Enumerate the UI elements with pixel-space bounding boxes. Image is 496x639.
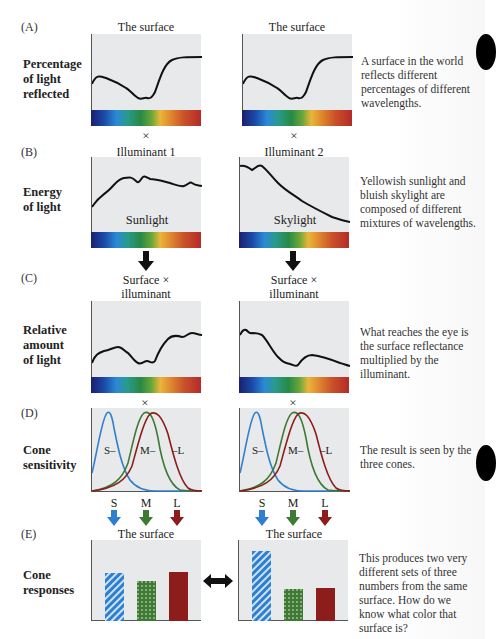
illuminant-plot-sunlight: Sunlight xyxy=(91,157,201,232)
description-a: A surface in the world reflects differen… xyxy=(361,54,481,110)
row-label-line: Cone xyxy=(23,443,76,458)
s-cone-arrow-icon xyxy=(107,510,121,526)
product-plot-right xyxy=(239,301,349,377)
row-label-line: of light xyxy=(23,200,62,215)
l-cone-bar xyxy=(316,588,335,621)
description-b: Yellowish sunlight and bluish skylight a… xyxy=(360,174,480,230)
spectrum-bar xyxy=(239,232,349,248)
l-cone-bar xyxy=(169,572,188,621)
cone-response-chart-left xyxy=(91,540,201,621)
double-headed-arrow-icon xyxy=(203,574,233,588)
cone-sensitivity-plot-right: S– M– –L xyxy=(239,408,349,492)
multiply-sign: × xyxy=(136,128,156,144)
cone-label-m: M xyxy=(136,496,156,511)
panel-letter-c: (C) xyxy=(21,271,37,286)
spectrum-bar xyxy=(91,377,201,393)
m-cone-arrow-icon xyxy=(286,510,300,526)
svg-text:S–: S– xyxy=(252,444,264,456)
row-label-d: Cone sensitivity xyxy=(23,443,76,473)
cone-sensitivity-plot-left: S– M– –L xyxy=(91,408,201,492)
row-label-line: Cone xyxy=(23,568,74,583)
title-line: illuminant xyxy=(239,287,349,301)
illuminant-plot-skylight: Skylight xyxy=(239,157,349,232)
panel-letter-b: (B) xyxy=(21,145,37,160)
row-label-line: sensitivity xyxy=(23,458,76,473)
spectrum-bar xyxy=(239,377,349,393)
spectrum-bar xyxy=(91,232,201,248)
panel-title-c-right: Surface × illuminant xyxy=(239,273,349,301)
m-cone-bar xyxy=(137,581,156,621)
description-c: What reaches the eye is the surface refl… xyxy=(360,325,480,381)
panel-title-a-left: The surface xyxy=(91,20,201,35)
svg-text:M–: M– xyxy=(140,444,156,456)
row-label-b: Energy of light xyxy=(23,185,62,215)
row-label-line: Relative xyxy=(23,323,67,338)
cone-label-s: S xyxy=(104,496,124,511)
down-arrow-icon xyxy=(285,251,301,271)
svg-text:–L: –L xyxy=(319,444,333,456)
panel-title-a-right: The surface xyxy=(242,20,352,35)
panel-letter-a: (A) xyxy=(21,20,38,35)
title-line: Surface × xyxy=(91,273,201,287)
row-label-line: amount xyxy=(23,338,67,353)
row-label-e: Cone responses xyxy=(23,568,74,598)
multiply-sign: × xyxy=(284,128,304,144)
spectrum-bar xyxy=(91,110,201,126)
m-cone-arrow-icon xyxy=(139,510,153,526)
skylight-label: Skylight xyxy=(240,213,350,228)
svg-text:S–: S– xyxy=(104,444,116,456)
cone-response-chart-right xyxy=(238,540,348,621)
cone-label-s: S xyxy=(252,496,272,511)
title-line: illuminant xyxy=(91,287,201,301)
s-cone-bar xyxy=(252,551,271,621)
svg-text:M–: M– xyxy=(288,444,304,456)
l-cone-arrow-icon xyxy=(318,510,332,526)
row-label-line: of light xyxy=(23,353,67,368)
reflectance-plot-left xyxy=(91,34,201,110)
panel-title-c-left: Surface × illuminant xyxy=(91,273,201,301)
down-arrow-icon xyxy=(138,251,154,271)
description-e: This produces two very different sets of… xyxy=(359,551,479,635)
l-cone-arrow-icon xyxy=(170,510,184,526)
row-label-line: reflected xyxy=(23,87,82,102)
cone-label-m: M xyxy=(283,496,303,511)
description-d: The result is seen by the three cones. xyxy=(360,443,480,471)
row-label-line: responses xyxy=(23,583,74,598)
spectrum-bar xyxy=(242,110,352,126)
s-cone-arrow-icon xyxy=(255,510,269,526)
s-cone-bar xyxy=(105,573,124,621)
panel-letter-d: (D) xyxy=(21,406,38,421)
row-label-line: of light xyxy=(23,72,82,87)
sunlight-label: Sunlight xyxy=(92,213,202,228)
row-label-line: Energy xyxy=(23,185,62,200)
cone-label-l: L xyxy=(167,496,187,511)
cone-label-l: L xyxy=(315,496,335,511)
product-plot-left xyxy=(91,301,201,377)
row-label-line: Percentage xyxy=(23,57,82,72)
row-label-c: Relative amount of light xyxy=(23,323,67,368)
title-line: Surface × xyxy=(239,273,349,287)
svg-text:–L: –L xyxy=(171,444,185,456)
m-cone-bar xyxy=(284,589,303,621)
row-label-a: Percentage of light reflected xyxy=(23,57,82,102)
reflectance-plot-right xyxy=(242,34,352,110)
panel-letter-e: (E) xyxy=(21,527,36,542)
